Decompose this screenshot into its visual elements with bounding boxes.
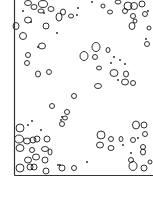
dot [137, 137, 139, 139]
dot [91, 1, 93, 3]
dot [61, 116, 63, 118]
dot [122, 144, 124, 146]
dot [60, 119, 62, 121]
dot [130, 152, 132, 154]
dot [30, 21, 32, 23]
dot [76, 14, 78, 16]
dot [145, 38, 147, 40]
dot [77, 7, 79, 9]
dot [124, 63, 126, 65]
dot [117, 79, 119, 81]
dot [113, 56, 115, 58]
dot [22, 10, 24, 12]
dot [110, 62, 112, 64]
dot [37, 46, 39, 48]
dot [59, 164, 61, 166]
dot [40, 129, 42, 131]
dot [86, 161, 88, 163]
dot [56, 32, 58, 34]
dot [119, 59, 121, 61]
dot [31, 120, 33, 122]
dot [43, 12, 45, 14]
dot [147, 10, 149, 12]
circle-scatter-figure [0, 0, 153, 197]
scientific-illustration [0, 0, 153, 197]
dot [57, 164, 59, 166]
dot [27, 124, 29, 126]
